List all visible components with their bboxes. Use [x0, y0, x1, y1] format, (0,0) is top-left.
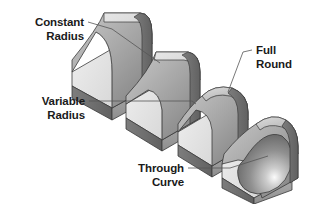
- fillet-types-illustration: Constant Radius Variable Radius Full Rou…: [0, 0, 316, 204]
- callout-full-round-line2: Round: [256, 58, 292, 70]
- callout-full-round-line1: Full: [256, 44, 276, 56]
- figure-container: Constant Radius Variable Radius Full Rou…: [0, 0, 316, 204]
- callout-through-curve-line1: Through: [138, 162, 184, 174]
- callout-variable-radius-line2: Radius: [47, 109, 85, 121]
- callout-full-round: Full Round: [228, 44, 292, 92]
- callout-constant-radius-line1: Constant: [35, 16, 84, 28]
- callout-through-curve-line2: Curve: [152, 176, 184, 188]
- callout-variable-radius-line1: Variable: [42, 95, 85, 107]
- leader-line-full-round: [228, 50, 252, 92]
- callout-constant-radius-line2: Radius: [46, 30, 84, 42]
